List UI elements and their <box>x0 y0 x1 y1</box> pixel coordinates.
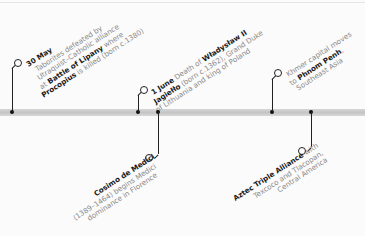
event-stem <box>138 95 139 112</box>
top-border <box>0 2 365 3</box>
event-text: (born c.1362), Grand Duke <box>177 28 264 89</box>
event-stem <box>12 68 13 112</box>
event-ring-icon <box>140 86 148 94</box>
event-label: Aztec Triple Alliance with Texcoco and T… <box>232 142 330 218</box>
event-text-line: (1389–1464) begins Medici <box>72 162 158 222</box>
event-label: Khmer capital moves to Phnom Penh, South… <box>285 31 363 94</box>
event-ring-icon <box>14 59 22 67</box>
event-label: 1 June Death of Władysław II Jagiełło (b… <box>150 22 269 112</box>
event-ring-icon <box>274 69 282 77</box>
event-label: 30 May Taborites defeated by Utraquist–C… <box>25 0 146 98</box>
event-stem <box>272 79 273 112</box>
event-label: Cosimo de Medici (1389–1464) begins Medi… <box>67 157 159 229</box>
event-stem <box>158 112 159 154</box>
